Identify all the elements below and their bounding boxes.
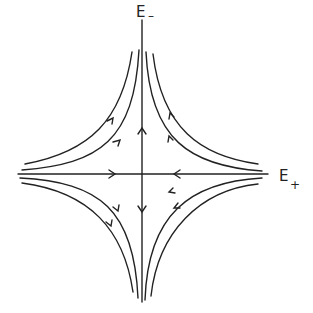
phase-portrait (0, 0, 313, 313)
curve-ur-outer (153, 54, 258, 164)
horizontal-axis-label: E (279, 169, 288, 184)
arrow-ul-inner-icon (113, 140, 120, 146)
arrow-ll-inner-icon (113, 205, 119, 211)
vertical-axis-label: E (136, 5, 145, 20)
arrow-lr-inner-icon (169, 188, 175, 193)
curve-ll-outer (22, 183, 133, 292)
curve-lr-outer (151, 184, 258, 296)
arrow-ur-outer-icon (169, 113, 174, 119)
curve-lr-inner (145, 178, 262, 300)
horizontal-axis-subscript: + (290, 178, 300, 192)
curve-ll-inner (20, 178, 138, 298)
vertical-axis-subscript: – (148, 9, 154, 23)
curve-ur-inner (146, 52, 262, 171)
curve-ul-inner (22, 50, 139, 170)
curve-ul-outer (25, 52, 132, 164)
